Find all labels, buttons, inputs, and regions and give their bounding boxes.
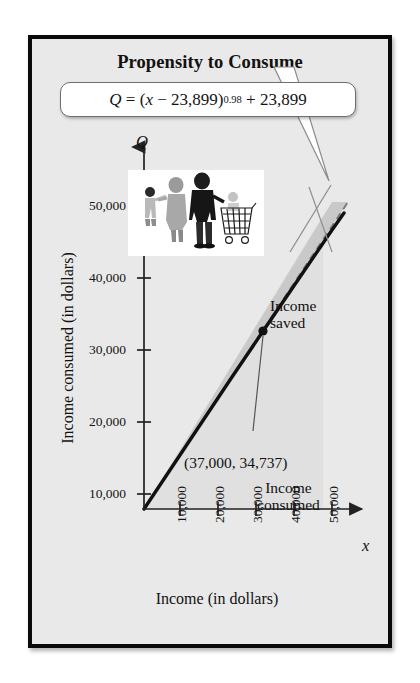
- equation-variable: x: [145, 90, 153, 110]
- equation-text: Q = ( x − 23,899 ) 0.98 + 23,899: [61, 83, 355, 116]
- equation-lhs: Q: [109, 90, 121, 110]
- figure-panel: Propensity to Consume: [28, 35, 392, 648]
- y-axis-title: Income consumed (in dollars): [59, 228, 77, 468]
- y-axis-variable-label: Q: [136, 132, 148, 152]
- annotation-income-saved: Income saved: [270, 297, 316, 332]
- equation-callout: Q = ( x − 23,899 ) 0.98 + 23,899: [60, 82, 356, 117]
- panel-inner: Propensity to Consume: [32, 39, 388, 644]
- annotation-income-saved-line2: saved: [270, 314, 316, 331]
- equation-plus: +: [246, 90, 256, 110]
- x-tick-label-50000: 50,000: [326, 486, 342, 523]
- y-tick-label-10000: 10,000: [54, 486, 126, 502]
- equation-minus: −: [157, 90, 167, 110]
- family-photo-svg: [128, 170, 264, 256]
- equation-offset: 23,899: [260, 90, 307, 110]
- y-tick-label-50000: 50,000: [54, 198, 126, 214]
- x-tick-label-20000: 20,000: [212, 486, 228, 523]
- data-point-marker: [258, 326, 267, 335]
- family-shopping-photo: [128, 170, 264, 256]
- equation-constant: 23,899: [171, 90, 218, 110]
- annotation-income-consumed: Income consumed: [257, 479, 320, 514]
- annotation-income-consumed-line1: Income: [257, 479, 320, 496]
- x-axis-variable-label: x: [362, 536, 369, 556]
- annotation-income-consumed-line2: consumed: [257, 496, 320, 513]
- equation-exponent: 0.98: [223, 94, 241, 105]
- x-tick-label-10000: 10,000: [174, 486, 190, 523]
- figure-container: Propensity to Consume: [0, 0, 420, 683]
- equation-equals: =: [126, 90, 136, 110]
- x-axis-title: Income (in dollars): [92, 590, 342, 608]
- annotation-point-coordinates: (37,000, 34,737): [184, 454, 287, 471]
- annotation-income-saved-line1: Income: [270, 297, 316, 314]
